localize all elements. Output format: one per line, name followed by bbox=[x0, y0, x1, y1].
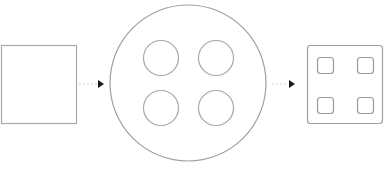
empty-square-node bbox=[2, 46, 77, 124]
arrow-2-head-icon bbox=[289, 80, 295, 88]
diagram-canvas bbox=[0, 0, 391, 171]
arrow-1-head-icon bbox=[98, 80, 104, 88]
rounded-square-node bbox=[308, 46, 383, 124]
empty-square-shape bbox=[2, 46, 77, 124]
flow-diagram bbox=[0, 0, 391, 171]
arrow-1 bbox=[79, 80, 104, 88]
arrow-2 bbox=[272, 80, 295, 88]
large-circle-node bbox=[110, 5, 266, 161]
large-circle-shape bbox=[110, 5, 266, 161]
